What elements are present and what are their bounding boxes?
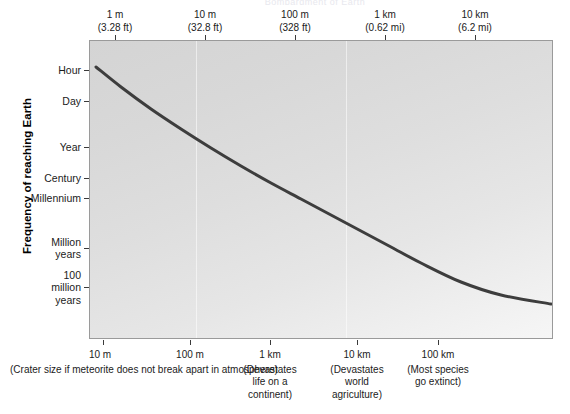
y-axis-label-6: 100 million years xyxy=(51,269,81,307)
bottom-axis-tick-0 xyxy=(103,340,104,345)
bottom-axis-label-main-2: 1 km xyxy=(243,349,296,362)
y-axis-label-3: Century xyxy=(44,172,81,185)
bottom-axis-label-note-4: (Most species go extinct) xyxy=(407,364,469,389)
bottom-axis-tick-4 xyxy=(438,340,439,345)
top-axis-label-0: 1 m(3.28 ft) xyxy=(98,9,132,34)
top-axis-label-4: 10 km(6.2 mi) xyxy=(458,9,492,34)
top-axis-label-sub: (32.8 ft) xyxy=(188,22,222,35)
top-axis-label-main: 100 m xyxy=(279,9,311,22)
bottom-axis-label-note-0: (Crater size if meteorite does not break… xyxy=(10,364,278,377)
y-axis-label-5: Million years xyxy=(51,236,81,261)
plot-area xyxy=(89,40,553,339)
bottom-axis-tick-1 xyxy=(190,340,191,345)
y-axis-tick-1 xyxy=(84,101,89,102)
frequency-curve xyxy=(90,41,553,339)
bottom-axis-label-main-3: 10 km xyxy=(330,349,383,362)
figure-title-faint: Bombardment of Earth xyxy=(200,0,430,8)
y-axis-label-4: Millennium xyxy=(31,192,81,205)
y-axis-tick-5 xyxy=(84,248,89,249)
bottom-axis-label-main-1: 100 m xyxy=(176,349,204,362)
bottom-axis-label-main-0: 10 m xyxy=(10,349,190,362)
bottom-axis-label-3: 10 km(Devastates world agriculture) xyxy=(330,349,383,401)
top-axis-label-sub: (3.28 ft) xyxy=(98,22,132,35)
y-axis-label-1: Day xyxy=(62,95,81,108)
bottom-axis-label-main-4: 100 km xyxy=(407,349,469,362)
top-axis-label-main: 1 m xyxy=(98,9,132,22)
y-axis-tick-6 xyxy=(84,287,89,288)
y-axis-label-0: Hour xyxy=(58,64,81,77)
y-axis-tick-4 xyxy=(84,198,89,199)
bottom-axis-label-2: 1 km(Devastates life on a continent) xyxy=(243,349,296,401)
bottom-axis-label-note-3: (Devastates world agriculture) xyxy=(330,364,383,402)
y-axis-title: Frequency of reaching Earth xyxy=(21,66,33,286)
top-axis-label-1: 10 m(32.8 ft) xyxy=(188,9,222,34)
y-axis-label-2: Year xyxy=(60,141,81,154)
bottom-axis-label-4: 100 km(Most species go extinct) xyxy=(407,349,469,389)
bottom-axis-label-1: 100 m xyxy=(176,349,204,364)
chart-figure: Bombardment of Earth 1 m(3.28 ft)10 m(32… xyxy=(0,0,570,414)
top-axis-label-sub: (0.62 mi) xyxy=(365,22,404,35)
top-axis-label-main: 10 m xyxy=(188,9,222,22)
top-axis-label-sub: (6.2 mi) xyxy=(458,22,492,35)
top-axis-label-3: 1 km(0.62 mi) xyxy=(365,9,404,34)
bottom-axis-tick-3 xyxy=(357,340,358,345)
top-axis-label-2: 100 m(328 ft) xyxy=(279,9,311,34)
y-axis-tick-2 xyxy=(84,147,89,148)
bottom-axis-tick-2 xyxy=(270,340,271,345)
top-axis-label-sub: (328 ft) xyxy=(279,22,311,35)
top-axis-label-main: 10 km xyxy=(458,9,492,22)
y-axis-tick-0 xyxy=(84,70,89,71)
bottom-axis-label-0: 10 m(Crater size if meteorite does not b… xyxy=(10,349,278,376)
y-axis-tick-3 xyxy=(84,178,89,179)
top-axis-label-main: 1 km xyxy=(365,9,404,22)
bottom-axis-label-note-2: (Devastates life on a continent) xyxy=(243,364,296,402)
